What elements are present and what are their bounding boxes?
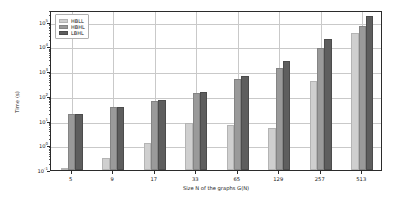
y-tick-minor [49, 164, 51, 165]
y-tick-minor [49, 28, 51, 29]
y-tick-minor [49, 24, 51, 25]
y-tick-minor [49, 80, 51, 81]
y-tick-minor [49, 152, 51, 153]
bar-hbhl-129 [276, 68, 283, 170]
y-tick-minor [49, 73, 51, 74]
bar-hbhl-257 [317, 48, 324, 170]
y-tick-minor [49, 60, 51, 61]
legend-label: LBHL [71, 30, 84, 36]
y-tick-minor [49, 159, 51, 160]
x-tick-label: 33 [192, 176, 199, 182]
y-axis-tick-labels: 10-1100101102103104105 [22, 0, 48, 204]
y-tick-minor [49, 125, 51, 126]
bar-group [102, 12, 124, 170]
y-tick-minor [49, 156, 51, 157]
bar-hbhl-33 [193, 93, 200, 170]
y-tick-minor [49, 127, 51, 128]
y-tick-minor [49, 131, 51, 132]
legend-item: LBHL [59, 30, 85, 36]
chart-figure: Time (s) 10-1100101102103104105 Size N o… [0, 0, 394, 204]
bar-lbhl-513 [366, 16, 373, 170]
bar-hbhl-5 [68, 114, 75, 170]
legend-swatch-icon [59, 25, 68, 29]
legend-swatch-icon [59, 19, 68, 23]
x-tick-mark [320, 171, 321, 174]
y-tick-minor [49, 40, 51, 41]
x-tick-mark [361, 171, 362, 174]
bar-group [227, 12, 249, 170]
y-tick-minor [49, 107, 51, 108]
bar-group [310, 12, 332, 170]
bar-hbll-5 [61, 168, 68, 170]
bar-hbhl-513 [359, 26, 366, 170]
x-tick-label: 129 [273, 176, 283, 182]
bar-lbhl-17 [158, 100, 165, 170]
y-tick-minor [49, 98, 51, 99]
bar-hbll-33 [185, 123, 192, 170]
bar-lbhl-129 [283, 61, 290, 170]
x-tick-label: 65 [233, 176, 240, 182]
y-tick-minor [49, 49, 51, 50]
x-tick-mark [278, 171, 279, 174]
y-tick-minor [49, 75, 51, 76]
y-tick-minor [49, 124, 51, 125]
bar-hbhl-65 [234, 79, 241, 170]
bar-lbhl-33 [200, 92, 207, 170]
y-tick-minor [49, 82, 51, 83]
y-tick-minor [49, 57, 51, 58]
bar-lbhl-9 [117, 107, 124, 170]
x-tick-label: 5 [69, 176, 72, 182]
bar-group [144, 12, 166, 170]
y-tick-minor [49, 53, 51, 54]
bar-hbhl-17 [151, 101, 158, 170]
y-tick-minor [49, 51, 51, 52]
chart-legend: HBLLHBHLLBHL [55, 14, 89, 39]
y-tick-minor [49, 110, 51, 111]
y-tick-minor [49, 99, 51, 100]
plot-area [50, 11, 382, 171]
y-tick-minor [49, 30, 51, 31]
y-tick-minor [49, 65, 51, 66]
y-axis-label: Time (s) [14, 74, 20, 130]
y-tick-minor [49, 36, 51, 37]
bar-lbhl-257 [324, 39, 331, 170]
y-tick-minor [49, 139, 51, 140]
y-tick-minor [49, 50, 51, 51]
bar-group [268, 12, 290, 170]
bar-hbhl-9 [110, 107, 117, 170]
y-tick-minor [49, 150, 51, 151]
x-tick-mark [154, 171, 155, 174]
x-tick-label: 17 [150, 176, 157, 182]
y-tick-minor [49, 25, 51, 26]
x-tick-mark [195, 171, 196, 174]
y-tick-minor [49, 55, 51, 56]
y-tick-minor [49, 104, 51, 105]
x-tick-mark [112, 171, 113, 174]
x-tick-label: 513 [356, 176, 366, 182]
x-tick-label: 257 [315, 176, 325, 182]
legend-swatch-icon [59, 31, 68, 35]
bar-hbll-17 [144, 143, 151, 170]
x-tick-mark [71, 171, 72, 174]
y-tick-minor [49, 76, 51, 77]
y-tick-minor [49, 135, 51, 136]
bar-hbll-513 [351, 33, 358, 170]
y-tick-minor [49, 27, 51, 28]
bar-hbll-257 [310, 81, 317, 171]
bar-group [185, 12, 207, 170]
x-tick-label: 9 [111, 176, 114, 182]
y-tick-minor [49, 102, 51, 103]
y-tick-minor [49, 101, 51, 102]
x-tick-mark [237, 171, 238, 174]
bar-group [351, 12, 373, 170]
bar-hbll-65 [227, 125, 234, 170]
x-axis-label: Size N of the graphs G(N) [50, 185, 382, 191]
y-tick-minor [49, 78, 51, 79]
y-tick-minor [49, 147, 51, 148]
y-tick-mark [47, 171, 50, 172]
y-tick-minor [49, 89, 51, 90]
bar-hbll-129 [268, 128, 275, 170]
y-tick-minor [49, 149, 51, 150]
y-tick-minor [49, 11, 51, 12]
y-tick-minor [49, 154, 51, 155]
